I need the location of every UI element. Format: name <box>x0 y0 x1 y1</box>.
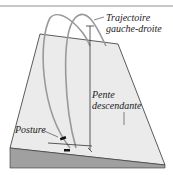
trajectory-leader <box>94 17 104 20</box>
posture-label: Posture <box>15 124 46 135</box>
slope-label-line2: descendante <box>92 100 141 111</box>
foot-right <box>64 149 70 152</box>
slope-label-line1: Pente <box>92 89 141 100</box>
trajectory-label: Trajectoire gauche-droite <box>106 12 162 34</box>
trajectory-label-line1: Trajectoire <box>106 12 162 23</box>
slope-label: Pente descendante <box>92 89 141 111</box>
trajectory-label-line2: gauche-droite <box>106 23 162 34</box>
